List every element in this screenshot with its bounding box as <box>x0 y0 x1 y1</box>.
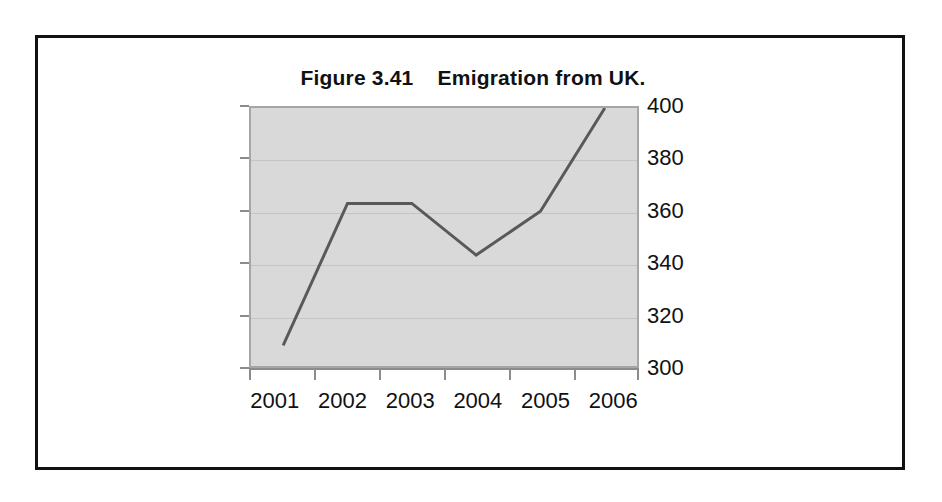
x-axis-labels: 200120022003200420052006 <box>241 388 647 414</box>
x-tick-label-2005: 2005 <box>512 388 580 414</box>
figure-frame: Figure 3.41 Emigration from UK. 30032034… <box>35 35 905 470</box>
y-tick-label-400: 400 <box>647 93 684 119</box>
y-tick-label-380: 380 <box>647 145 684 171</box>
line-chart: 300320340360380400 200120022003200420052… <box>249 106 699 446</box>
y-tickmark-380 <box>240 157 249 159</box>
figure-title: Figure 3.41 Emigration from UK. <box>38 66 908 90</box>
x-tickmark-3 <box>444 370 446 380</box>
x-tick-label-2003: 2003 <box>376 388 444 414</box>
series-polyline <box>283 108 605 345</box>
x-tick-label-2006: 2006 <box>579 388 647 414</box>
y-axis-labels: 300320340360380400 <box>647 106 717 368</box>
x-axis-tickmarks <box>249 370 639 380</box>
y-tick-label-320: 320 <box>647 303 684 329</box>
x-tickmark-5 <box>574 370 576 380</box>
series-line-emigration-from-uk <box>251 108 637 366</box>
y-tick-label-300: 300 <box>647 355 684 381</box>
x-tick-label-2001: 2001 <box>241 388 309 414</box>
y-tickmark-320 <box>240 315 249 317</box>
x-tickmark-0 <box>249 370 251 380</box>
y-tick-label-360: 360 <box>647 198 684 224</box>
x-tickmark-4 <box>509 370 511 380</box>
y-tick-label-340: 340 <box>647 250 684 276</box>
figure-root: Figure 3.41 Emigration from UK. 30032034… <box>0 0 942 502</box>
x-tick-label-2002: 2002 <box>309 388 377 414</box>
y-tickmark-300 <box>240 367 249 369</box>
y-tickmark-400 <box>240 105 249 107</box>
y-tickmark-360 <box>240 210 249 212</box>
y-axis-tickmarks <box>240 106 249 368</box>
x-tickmark-6 <box>637 370 639 380</box>
x-tick-label-2004: 2004 <box>444 388 512 414</box>
x-tickmark-1 <box>314 370 316 380</box>
y-tickmark-340 <box>240 262 249 264</box>
plot-area <box>249 106 639 368</box>
x-tickmark-2 <box>379 370 381 380</box>
